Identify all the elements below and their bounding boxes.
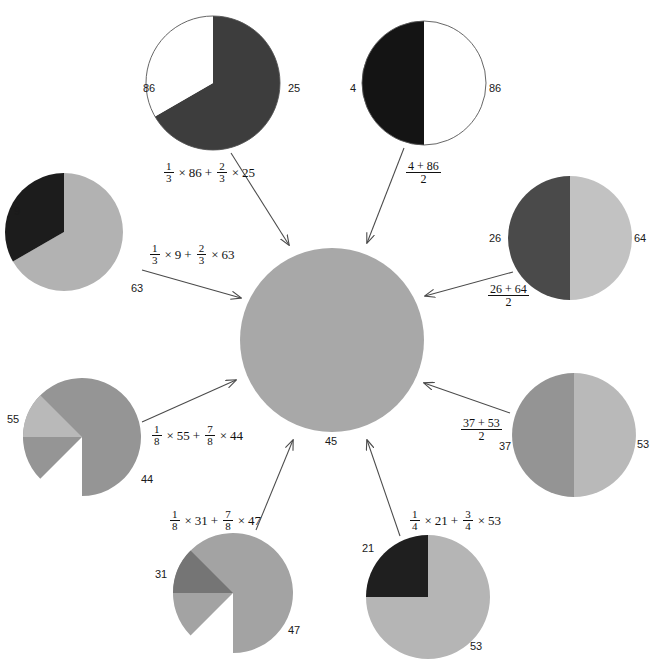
pie-26-64-label-64: 64 <box>634 233 646 244</box>
pie-4-86 <box>362 21 486 145</box>
pie-26-64-slice-64 <box>570 176 632 300</box>
fraction-denominator: 8 <box>205 436 215 447</box>
fraction-1-over-3: 13 <box>150 243 160 266</box>
plus-sign: + <box>451 514 458 527</box>
plus-sign: + <box>205 166 212 179</box>
center-value-label: 45 <box>325 436 337 447</box>
pie-9-63-label-63: 63 <box>131 283 143 294</box>
fraction-numerator: 4 + 86 <box>406 160 441 173</box>
center-layer <box>240 248 424 432</box>
fraction-denominator: 4 <box>410 521 420 532</box>
arrow-from-left-upper <box>142 270 241 298</box>
fraction-4 + 86-over-2: 4 + 862 <box>406 160 441 185</box>
fraction-26 + 64-over-2: 26 + 642 <box>488 283 529 308</box>
fraction-numerator: 26 + 64 <box>488 283 529 296</box>
fraction-37 + 53-over-2: 37 + 532 <box>461 417 502 442</box>
pie-26-64-label-26: 26 <box>489 233 501 244</box>
multiply-sign: × <box>211 248 218 261</box>
formula-value: 53 <box>488 514 501 527</box>
plus-sign: + <box>193 429 200 442</box>
fraction-1-over-8: 18 <box>152 424 162 447</box>
pie-37-53-label-53: 53 <box>637 439 649 450</box>
multiply-sign: × <box>232 166 239 179</box>
arrow-from-right-lower <box>424 383 510 413</box>
fraction-7-over-8: 78 <box>223 509 233 532</box>
pie-37-53-formula: 37 + 532 <box>459 417 504 442</box>
fraction-denominator: 2 <box>476 430 486 442</box>
formula-value: 44 <box>230 429 243 442</box>
pie-31-47-label-47: 47 <box>288 625 300 636</box>
multiply-sign: × <box>185 514 192 527</box>
formula-value: 63 <box>222 248 235 261</box>
pie-9-63 <box>5 173 123 291</box>
pie-4-86-formula: 4 + 862 <box>404 160 443 185</box>
fraction-2-over-3: 23 <box>197 243 207 266</box>
pie-31-47-label-31: 31 <box>155 569 167 580</box>
pie-86-25-label-86: 86 <box>143 83 155 94</box>
arrow-from-top-right <box>367 148 404 243</box>
pie-4-86-label-86: 86 <box>489 83 501 94</box>
pie-37-53-slice-53 <box>574 373 636 497</box>
pie-55-44-label-55: 55 <box>7 414 19 425</box>
diagram-canvas: 4586254869632664554437533147215313×86+23… <box>0 0 658 666</box>
pie-9-63-label-9: 9 <box>14 206 20 217</box>
fraction-denominator: 3 <box>217 173 227 184</box>
pie-diagram-svg <box>0 0 658 666</box>
multiply-sign: × <box>220 429 227 442</box>
pie-4-86-label-4: 4 <box>350 83 356 94</box>
fraction-denominator: 2 <box>418 173 428 185</box>
pie-37-53-slice-37 <box>512 373 574 497</box>
formula-value: 55 <box>177 429 190 442</box>
pie-86-25-label-25: 25 <box>288 83 300 94</box>
arrow-from-left-lower <box>142 380 236 422</box>
plus-sign: + <box>211 514 218 527</box>
arrow-from-bottom-right <box>367 440 400 536</box>
pie-55-44-formula: 18×55+78×44 <box>150 424 243 447</box>
pie-37-53-label-37: 37 <box>499 441 511 452</box>
pie-21-53-label-21: 21 <box>362 543 374 554</box>
fraction-denominator: 3 <box>197 255 207 266</box>
fraction-1-over-4: 14 <box>410 509 420 532</box>
pie-4-86-slice-4 <box>362 21 424 145</box>
formula-value: 25 <box>242 166 255 179</box>
pie-21-53-slice-21 <box>366 535 428 597</box>
fraction-denominator: 8 <box>152 436 162 447</box>
fraction-2-over-3: 23 <box>217 161 227 184</box>
pie-26-64-formula: 26 + 642 <box>486 283 531 308</box>
fraction-denominator: 4 <box>463 521 473 532</box>
pie-55-44 <box>23 378 141 496</box>
fraction-1-over-3: 13 <box>164 161 174 184</box>
pie-55-44-label-44: 44 <box>141 474 153 485</box>
fraction-numerator: 37 + 53 <box>461 417 502 430</box>
pie-37-53 <box>512 373 636 497</box>
pie-9-63-formula: 13×9+23×63 <box>148 243 235 266</box>
pie-31-47-formula: 18×31+78×47 <box>168 509 261 532</box>
plus-sign: + <box>184 248 191 261</box>
multiply-sign: × <box>165 248 172 261</box>
formula-value: 21 <box>435 514 448 527</box>
multiply-sign: × <box>478 514 485 527</box>
multiply-sign: × <box>167 429 174 442</box>
formula-value: 31 <box>195 514 208 527</box>
center-circle <box>240 248 424 432</box>
formula-value: 47 <box>248 514 261 527</box>
multiply-sign: × <box>238 514 245 527</box>
formula-value: 9 <box>175 248 182 261</box>
pie-4-86-slice-86 <box>424 21 486 145</box>
fraction-7-over-8: 78 <box>205 424 215 447</box>
pie-86-25-formula: 13×86+23×25 <box>162 161 255 184</box>
pie-21-53-formula: 14×21+34×53 <box>408 509 501 532</box>
formula-value: 86 <box>189 166 202 179</box>
fraction-1-over-8: 18 <box>170 509 180 532</box>
fraction-denominator: 2 <box>503 296 513 308</box>
pie-21-53-label-53: 53 <box>470 641 482 652</box>
fraction-denominator: 3 <box>150 255 160 266</box>
fraction-denominator: 3 <box>164 173 174 184</box>
fraction-denominator: 8 <box>223 521 233 532</box>
multiply-sign: × <box>425 514 432 527</box>
fraction-denominator: 8 <box>170 521 180 532</box>
pie-86-25 <box>146 16 280 150</box>
arrow-from-bottom-left <box>256 440 293 530</box>
multiply-sign: × <box>179 166 186 179</box>
fraction-3-over-4: 34 <box>463 509 473 532</box>
